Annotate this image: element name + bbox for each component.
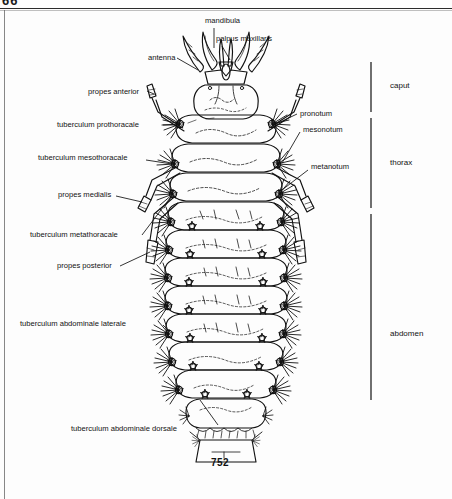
larva-illustration xyxy=(0,0,452,499)
callout-mesonotum: mesonotum xyxy=(303,125,343,134)
callout-tuberculum-metathoracale: tuberculum metathoracale xyxy=(30,230,118,239)
region-label-thorax: thorax xyxy=(390,158,412,167)
callout-tuberculum-mesothoracale: tuberculum mesothoracale xyxy=(38,153,127,162)
callout-palpus-maxillaris: palpus maxillaris xyxy=(216,34,272,43)
callout-pronotum: pronotum xyxy=(300,109,332,118)
figure-number: 752 xyxy=(211,457,229,468)
callout-tuberculum-prothoracale: tuberculum prothoracale xyxy=(57,120,139,129)
region-label-abdomen: abdomen xyxy=(390,329,423,338)
callout-tuberculum-abdominale-laterale: tuberculum abdominale laterale xyxy=(20,319,126,328)
region-label-caput: caput xyxy=(390,81,410,90)
callout-propes-posterior: propes posterior xyxy=(57,261,112,270)
page-canvas: 66 xyxy=(0,0,452,499)
callout-antenna: antenna xyxy=(148,53,175,62)
callout-propes-anterior: propes anterior xyxy=(88,87,139,96)
callout-mandibula: mandibula xyxy=(205,16,240,25)
callout-propes-medialis: propes medialis xyxy=(58,190,111,199)
callout-metanotum: metanotum xyxy=(311,162,349,171)
callout-tuberculum-abdominale-dorsale: tuberculum abdominale dorsale xyxy=(71,424,177,433)
